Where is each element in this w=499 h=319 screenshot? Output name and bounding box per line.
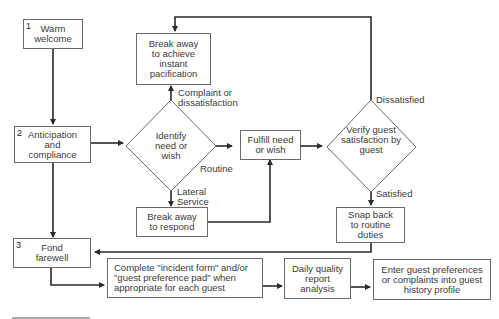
complete-form-box: Complete "incident form" and/or "guest p… [107, 258, 263, 298]
node-label: Warm welcome [30, 24, 76, 44]
routine-edge-label: Routine [200, 164, 233, 174]
identify-need-diamond: Identify need or wish [141, 131, 201, 161]
fond-farewell-box: 3 Fond farewell [13, 238, 91, 268]
step-number: 1 [26, 21, 31, 31]
satisfied-edge-label: Satisfied [376, 189, 412, 199]
enter-preferences-box: Enter guest preferences or complaints in… [373, 259, 491, 300]
fulfill-need-box: Fulfill need or wish [240, 130, 301, 160]
node-label: Break away to achieve instant pacificati… [144, 39, 204, 79]
node-label: Break away to respond [145, 212, 200, 232]
complaint-edge-label: Complaint or dissatisfaction [178, 88, 258, 108]
lateral-service-edge-label: Lateral Service [177, 187, 213, 207]
node-label: Fond farewell [32, 243, 72, 263]
break-away-respond-box: Break away to respond [136, 207, 208, 237]
node-label: Complete "incident form" and/or "guest p… [114, 263, 262, 293]
anticipation-box: 2 Anticipation and compliance [14, 126, 91, 163]
step-number: 2 [17, 128, 22, 138]
node-label: Anticipation and compliance [25, 130, 81, 160]
warm-welcome-box: 1 Warm welcome [23, 19, 83, 49]
dissatisfied-edge-label: Dissatisfied [376, 95, 425, 105]
break-away-pacification-box: Break away to achieve instant pacificati… [136, 33, 211, 85]
node-label: Identify need or wish [151, 131, 191, 161]
daily-report-box: Daily quality report analysis [284, 258, 351, 299]
verify-satisfaction-diamond: Verify guest satisfaction by guest [336, 125, 406, 155]
node-label: Enter guest preferences or complaints in… [378, 265, 486, 295]
step-number: 3 [16, 240, 21, 250]
node-label: Fulfill need or wish [246, 135, 296, 155]
node-label: Daily quality report analysis [290, 264, 346, 294]
snap-back-box: Snap back to routine duties [336, 207, 405, 243]
node-label: Verify guest satisfaction by guest [338, 125, 404, 155]
node-label: Snap back to routine duties [346, 210, 396, 240]
